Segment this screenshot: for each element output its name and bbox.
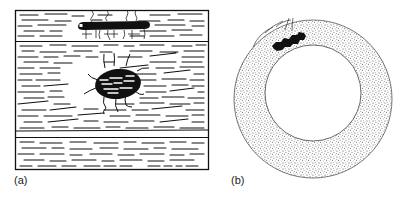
panel-a-label: (a)	[14, 174, 27, 186]
panel-b-diagram	[234, 18, 392, 178]
figure-canvas	[0, 0, 402, 197]
ring-inner-hole	[265, 45, 361, 141]
panel-a-diagram	[16, 10, 209, 170]
panel-b-label: (b)	[231, 174, 244, 186]
